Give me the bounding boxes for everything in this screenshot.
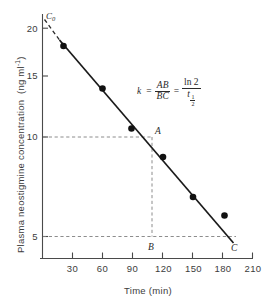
annotation-labels-group: A B C C0 — [46, 11, 238, 253]
equation-fraction-1-numerator: AB — [155, 81, 171, 92]
y-tick-marks — [43, 28, 49, 236]
x-tick-labels: 30 60 90 120 150 180 210 — [67, 263, 262, 274]
annotation-label-b: B — [148, 242, 154, 252]
data-point-1 — [60, 43, 67, 50]
y-axis-title-units-close: ) — [15, 56, 26, 59]
data-point-6 — [221, 212, 228, 219]
x-tick-label-30: 30 — [67, 263, 78, 274]
equation-lhs: k — [137, 86, 141, 96]
chart-figure: 20 15 10 5 30 60 90 120 150 180 210 — [0, 0, 276, 303]
equation-fraction-2-denominator: t12 — [185, 89, 197, 105]
axes-group — [40, 14, 253, 259]
x-tick-label-210: 210 — [244, 263, 261, 274]
y-axis-title-units: (ng ml — [15, 66, 26, 94]
equation-annotation: k = AB BC = ln 2 t12 — [137, 78, 201, 105]
guide-lines-group — [43, 137, 236, 237]
data-point-4 — [160, 154, 167, 161]
x-tick-label-120: 120 — [155, 263, 172, 274]
annotation-label-c: C — [231, 243, 238, 253]
equation-halflife-subscript: 12 — [190, 94, 195, 107]
plot-canvas: 20 15 10 5 30 60 90 120 150 180 210 — [0, 0, 276, 303]
x-tick-marks — [73, 253, 253, 259]
x-tick-label-90: 90 — [127, 263, 138, 274]
annotation-label-a: A — [154, 126, 161, 136]
equation-fraction-1-denominator: BC — [155, 92, 171, 102]
equation-fraction-2: ln 2 t12 — [182, 78, 201, 105]
x-tick-label-60: 60 — [97, 263, 108, 274]
equation-halflife-sub-denominator: 2 — [191, 101, 194, 107]
y-tick-labels: 20 15 10 5 — [27, 23, 38, 242]
data-point-2 — [99, 85, 106, 92]
y-tick-label-5: 5 — [32, 231, 38, 242]
x-tick-label-150: 150 — [185, 263, 202, 274]
data-point-3 — [128, 125, 135, 132]
y-axis-title-wrap: Plasma neostigmine concentration (ng ml-… — [0, 0, 22, 260]
y-tick-label-15: 15 — [27, 70, 38, 81]
equation-fraction-1: AB BC — [155, 81, 171, 103]
y-axis-title: Plasma neostigmine concentration (ng ml-… — [14, 56, 26, 253]
x-axis-title: Time (min) — [124, 285, 172, 296]
regression-fit-line — [60, 40, 234, 243]
data-point-5 — [190, 194, 197, 201]
y-tick-label-20: 20 — [27, 23, 38, 34]
y-tick-label-10: 10 — [27, 131, 38, 142]
c0-subscript: 0 — [52, 15, 56, 22]
annotation-label-c0: C0 — [46, 11, 56, 22]
equation-equals-1: = — [146, 86, 151, 96]
x-tick-label-180: 180 — [214, 263, 231, 274]
equation-fraction-2-numerator: ln 2 — [182, 78, 201, 89]
equation-equals-2: = — [174, 86, 179, 96]
y-axis-title-units-exponent: -1 — [14, 60, 21, 66]
y-axis-title-main: Plasma neostigmine concentration — [15, 100, 26, 253]
